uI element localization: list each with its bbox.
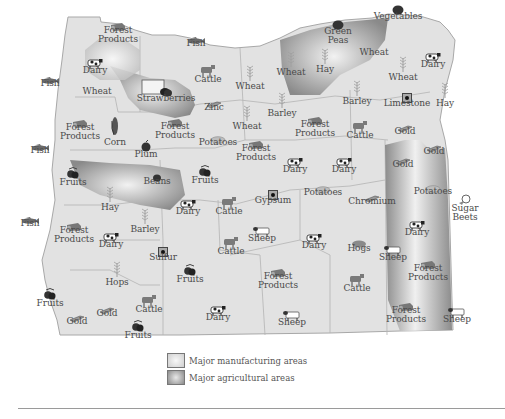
- map-label-forest-products-valley: ForestProducts: [155, 122, 195, 140]
- map-label-dairy-v: Dairy: [176, 207, 200, 216]
- map-label-text: Fish: [40, 79, 59, 88]
- map-label-barley-ne: Barley: [343, 97, 372, 106]
- map-label-text: Dairy: [405, 228, 429, 237]
- map-label-text: Wheat: [236, 82, 265, 91]
- map-label-text: Products: [155, 131, 195, 140]
- map-label-text: Gypsum: [255, 196, 291, 205]
- map-label-hay-valley: Hay: [101, 203, 119, 212]
- map-label-text: Dairy: [176, 207, 200, 216]
- map-label-text: Cattle: [135, 305, 162, 314]
- manufacturing-swatch-icon: [167, 353, 185, 368]
- map-label-gypsum: Gypsum: [255, 196, 291, 205]
- map-label-text: Hay: [436, 99, 454, 108]
- map-label-dairy-e: Dairy: [405, 228, 429, 237]
- map-label-fish-nw: Fish: [40, 79, 59, 88]
- map-label-potatoes-e: Potatoes: [414, 187, 452, 196]
- map-label-text: Barley: [131, 225, 160, 234]
- legend-row-manufacturing: Major manufacturing areas: [167, 352, 307, 369]
- map-label-barley-v: Barley: [131, 225, 160, 234]
- map-label-hay-ne: Hay: [316, 65, 334, 74]
- map-label-text: Beets: [452, 213, 479, 222]
- map-label-text: Potatoes: [199, 138, 237, 147]
- map-label-sheep-se: Sheep: [443, 315, 471, 324]
- map-label-text: Fish: [30, 146, 49, 155]
- legend-label-agricultural: Major agricultural areas: [189, 373, 295, 383]
- map-label-text: Fish: [186, 39, 205, 48]
- map-label-sheep-sc1: Sheep: [248, 234, 276, 243]
- map-label-plum: Plum: [135, 150, 158, 159]
- map-label-cattle-c: Cattle: [346, 131, 373, 140]
- map-label-text: Fruits: [60, 178, 87, 187]
- map-label-wheat-ne2: Wheat: [360, 48, 389, 57]
- map-label-wheat-ne1: Wheat: [277, 68, 306, 77]
- map-legend: Major manufacturing areas Major agricult…: [167, 352, 307, 386]
- map-label-dairy-sw: Dairy: [99, 240, 123, 249]
- legend-label-manufacturing: Major manufacturing areas: [189, 356, 307, 366]
- bottom-divider: [18, 408, 505, 409]
- map-label-gold-sw2: Gold: [97, 309, 118, 318]
- map-label-text: Cattle: [215, 207, 242, 216]
- map-label-dairy-c1: Dairy: [283, 165, 307, 174]
- map-label-barley-n: Barley: [268, 109, 297, 118]
- map-label-hay-far-ne: Hay: [436, 99, 454, 108]
- map-label-dairy-s: Dairy: [206, 313, 230, 322]
- map-label-forest-products-coast: ForestProducts: [60, 123, 100, 141]
- map-label-text: Cattle: [346, 131, 373, 140]
- map-label-forest-products-cc: ForestProducts: [236, 144, 276, 162]
- map-label-cattle-sw: Cattle: [135, 305, 162, 314]
- map-label-wheat-ne3: Wheat: [389, 73, 418, 82]
- map-label-text: Plum: [135, 150, 158, 159]
- map-label-hogs: Hogs: [347, 244, 370, 253]
- map-label-fruits-s: Fruits: [177, 275, 204, 284]
- map-label-text: Chromium: [348, 197, 395, 206]
- map-label-text: Wheat: [389, 73, 418, 82]
- map-label-text: Dairy: [421, 60, 445, 69]
- map-label-text: Cattle: [194, 75, 221, 84]
- map-label-sulfur: Sulfur: [149, 253, 177, 262]
- map-label-potatoes-c: Potatoes: [304, 188, 342, 197]
- map-label-text: Fish: [20, 219, 39, 228]
- map-label-dairy-c2: Dairy: [332, 165, 356, 174]
- map-label-text: Strawberries: [137, 94, 195, 103]
- map-label-dairy-tillamook: Dairy: [83, 66, 107, 75]
- map-label-text: Dairy: [206, 313, 230, 322]
- map-label-text: Wheat: [83, 87, 112, 96]
- map-label-gold-e2: Gold: [393, 160, 414, 169]
- map-label-wheat-n2: Wheat: [233, 122, 262, 131]
- map-label-text: Potatoes: [414, 187, 452, 196]
- map-label-text: Products: [408, 273, 448, 282]
- map-label-text: Dairy: [99, 240, 123, 249]
- map-label-dairy-sc: Dairy: [302, 241, 326, 250]
- map-label-text: Sheep: [278, 318, 306, 327]
- map-label-fruits-s2: Fruits: [125, 331, 152, 340]
- map-label-text: Barley: [343, 97, 372, 106]
- map-label-text: Wheat: [233, 122, 262, 131]
- map-label-text: Corn: [104, 138, 126, 147]
- map-label-green-peas: GreenPeas: [324, 27, 351, 45]
- map-label-beans: Beans: [143, 177, 170, 186]
- map-label-text: Fruits: [192, 176, 219, 185]
- map-label-text: Products: [295, 129, 335, 138]
- map-label-text: Potatoes: [304, 188, 342, 197]
- map-label-text: Sulfur: [149, 253, 177, 262]
- map-label-chromium: Chromium: [348, 197, 395, 206]
- map-label-zinc: Zinc: [204, 103, 224, 112]
- map-label-text: Limestone: [384, 99, 431, 108]
- map-label-text: Wheat: [277, 68, 306, 77]
- map-label-text: Cattle: [343, 284, 370, 293]
- map-label-text: Dairy: [283, 165, 307, 174]
- map-label-forest-products-c: ForestProducts: [295, 120, 335, 138]
- map-label-cattle-sc1: Cattle: [217, 247, 244, 256]
- map-label-fish-sw: Fish: [20, 219, 39, 228]
- map-label-strawberries: Strawberries: [137, 94, 195, 103]
- map-label-text: Hay: [101, 203, 119, 212]
- map-label-text: Fruits: [125, 331, 152, 340]
- map-label-text: Fruits: [37, 299, 64, 308]
- map-label-text: Dairy: [83, 66, 107, 75]
- map-label-text: Hay: [316, 65, 334, 74]
- map-label-text: Barley: [268, 109, 297, 118]
- map-label-text: Sheep: [248, 234, 276, 243]
- map-label-text: Sheep: [379, 253, 407, 262]
- map-label-sugar-beets: SugarBeets: [452, 204, 479, 222]
- map-label-cattle-v: Cattle: [215, 207, 242, 216]
